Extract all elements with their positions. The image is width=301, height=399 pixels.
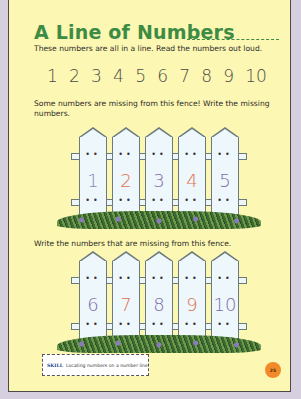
number-line-item: 3 bbox=[91, 66, 102, 86]
fence-picket: •• 5 •• bbox=[211, 137, 239, 215]
title-underline bbox=[187, 39, 279, 40]
number-line: 1 2 3 4 5 6 7 8 9 10 bbox=[47, 65, 267, 87]
picket-number: 2 bbox=[113, 170, 139, 191]
picket-number: 6 bbox=[80, 294, 106, 315]
fence-picket: •• 1 •• bbox=[79, 137, 107, 215]
picket-number: 9 bbox=[179, 294, 205, 315]
picket-number: 8 bbox=[146, 294, 172, 315]
skill-text: Locating numbers on a number line bbox=[66, 363, 148, 368]
picket-number: 4 bbox=[179, 170, 205, 191]
number-line-item: 6 bbox=[157, 66, 168, 86]
grass-flowers bbox=[57, 335, 261, 353]
number-line-item: 2 bbox=[69, 66, 80, 86]
page-number-badge: 25 bbox=[265, 362, 281, 378]
fence2-instruction: Write the numbers that are missing from … bbox=[34, 239, 279, 249]
number-line-item: 7 bbox=[179, 66, 190, 86]
fence-picket: •• 4 •• bbox=[178, 137, 206, 215]
number-line-item: 8 bbox=[201, 66, 212, 86]
number-line-item: 5 bbox=[135, 66, 146, 86]
fence-picket: •• 6 •• bbox=[79, 261, 107, 339]
fence-1: •• 1 •• •• 2 •• •• 3 •• •• 4 •• •• 5 bbox=[69, 137, 249, 229]
picket-number: 7 bbox=[113, 294, 139, 315]
fence-picket: •• 3 •• bbox=[145, 137, 173, 215]
fence-picket: •• 2 •• bbox=[112, 137, 140, 215]
fence-picket: •• 10 •• bbox=[211, 261, 239, 339]
picket-number: 3 bbox=[146, 170, 172, 191]
picket-number: 5 bbox=[212, 170, 238, 191]
worksheet-page: A Line of Numbers These numbers are all … bbox=[8, 0, 291, 392]
skill-box: SKILL Locating numbers on a number line bbox=[42, 354, 149, 376]
number-line-item: 9 bbox=[223, 66, 234, 86]
picket-number: 10 bbox=[212, 294, 238, 315]
number-line-item: 4 bbox=[113, 66, 124, 86]
picket-number: 1 bbox=[80, 170, 106, 191]
fence-2: •• 6 •• •• 7 •• •• 8 •• •• 9 •• •• 10 bbox=[69, 261, 249, 353]
fence1-instruction: Some numbers are missing from this fence… bbox=[34, 99, 279, 119]
intro-text: These numbers are all in a line. Read th… bbox=[34, 44, 284, 54]
skill-label: SKILL bbox=[47, 363, 63, 368]
number-line-item: 10 bbox=[245, 66, 267, 86]
grass-flowers bbox=[57, 211, 261, 229]
fence-picket: •• 9 •• bbox=[178, 261, 206, 339]
fence-picket: •• 7 •• bbox=[112, 261, 140, 339]
number-line-item: 1 bbox=[47, 66, 58, 86]
fence-picket: •• 8 •• bbox=[145, 261, 173, 339]
